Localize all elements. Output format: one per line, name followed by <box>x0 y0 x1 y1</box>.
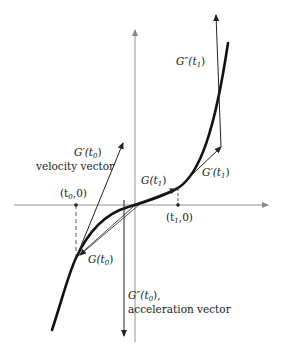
label-t1-point: (t1,0) <box>166 211 193 225</box>
chord-line-t0 <box>78 207 133 256</box>
label-t0-point: (t0,0) <box>60 187 87 201</box>
acceleration-vector-t1 <box>216 15 221 147</box>
label-acceleration-vector: acceleration vector <box>128 303 232 315</box>
label-g-double-prime-t0: G″(t0), <box>128 289 161 303</box>
t0-point <box>74 203 78 207</box>
chord-arrow-g-t0 <box>80 204 140 255</box>
label-g-t0: G(t0) <box>88 253 113 267</box>
label-g-prime-t1: G′(t1) <box>202 166 230 180</box>
diagram-canvas: G″(t1) G′(t0) velocity vector (t0,0) G(t… <box>0 0 282 353</box>
label-g-t1: G(t1) <box>141 174 166 188</box>
label-g-prime-t0: G′(t0) <box>74 146 102 160</box>
t1-point <box>176 203 180 207</box>
label-g-double-prime-t1: G″(t1) <box>176 55 205 69</box>
label-velocity-vector: velocity vector <box>35 160 115 172</box>
